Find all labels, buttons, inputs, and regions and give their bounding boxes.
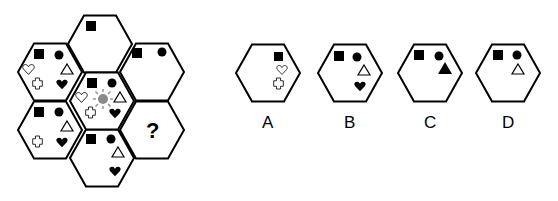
black-square-icon	[334, 51, 344, 61]
black-square-icon	[86, 21, 96, 31]
black-square-icon	[87, 78, 97, 88]
black-circle-icon	[55, 51, 64, 60]
puzzle-figure: ?	[0, 0, 558, 201]
option-label: A	[262, 113, 274, 132]
option-c[interactable]: C	[398, 45, 462, 133]
option-a[interactable]: A	[236, 45, 300, 133]
black-circle-icon	[107, 135, 116, 144]
black-square-icon	[414, 50, 424, 60]
answer-options: A B C D	[236, 45, 540, 133]
option-label: D	[502, 113, 514, 132]
option-label: B	[344, 113, 355, 132]
gray-sun-icon	[93, 89, 113, 109]
black-square-icon	[86, 134, 96, 144]
black-circle-icon	[108, 79, 117, 88]
black-circle-icon	[55, 108, 64, 117]
black-circle-icon	[158, 48, 167, 57]
hex-grid: ?	[18, 16, 184, 187]
black-circle-icon	[435, 52, 444, 61]
black-square-icon	[34, 49, 44, 59]
black-square-icon	[493, 50, 503, 60]
hex-lower-left	[18, 102, 82, 159]
option-b[interactable]: B	[318, 45, 382, 133]
option-label: C	[424, 113, 436, 132]
black-square-icon	[132, 48, 142, 58]
question-mark: ?	[146, 118, 159, 143]
black-circle-icon	[353, 53, 362, 62]
black-circle-icon	[513, 51, 522, 60]
option-d[interactable]: D	[476, 45, 540, 133]
black-square-icon	[274, 52, 283, 61]
black-square-icon	[34, 107, 44, 117]
